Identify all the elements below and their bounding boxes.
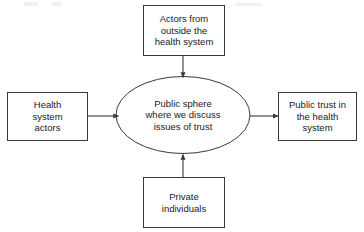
diagram-canvas: Actors from outside the health system He… [0, 0, 364, 232]
node-public-trust-shape [279, 93, 357, 141]
node-actors-outside-shape [144, 6, 225, 56]
node-private-individuals-shape [144, 178, 225, 228]
node-public-sphere-shape [116, 77, 250, 154]
diagram-graphics [0, 0, 364, 232]
node-health-system-actors-shape [8, 93, 88, 141]
